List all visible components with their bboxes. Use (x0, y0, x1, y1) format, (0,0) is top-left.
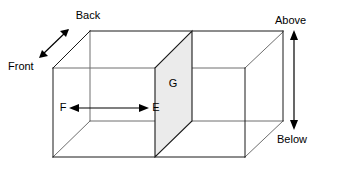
front-back-arrow (39, 29, 69, 58)
partition-panel-g (155, 31, 192, 157)
label-below: Below (277, 133, 307, 145)
label-front: Front (8, 60, 34, 72)
diagram-container: Back Front Above Below F E G (0, 0, 340, 179)
e-arrowhead-icon (139, 104, 149, 112)
edge-bottom-left-receding (53, 121, 90, 157)
above-arrowhead-icon (290, 30, 298, 40)
label-g: G (169, 77, 178, 89)
box-diagram: Back Front Above Below F E G (0, 0, 340, 179)
edge-top-left-receding (53, 31, 90, 68)
below-arrowhead-icon (290, 120, 298, 130)
label-e: E (152, 101, 159, 113)
label-above: Above (275, 14, 306, 26)
label-f: F (60, 101, 67, 113)
above-below-arrow (290, 30, 298, 130)
f-e-arrow (69, 104, 149, 112)
f-arrowhead-icon (69, 104, 79, 112)
edge-top-right-receding (245, 32, 283, 68)
label-back: Back (76, 9, 101, 21)
